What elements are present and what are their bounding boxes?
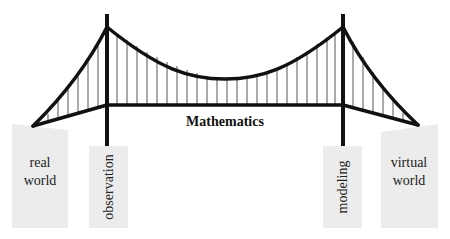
virtual-world-block: virtual world (381, 124, 438, 228)
mathematics-label: Mathematics (186, 114, 264, 129)
bridge-diagram: real world virtual world observation mod… (0, 0, 450, 239)
modeling-label: modeling (335, 161, 350, 214)
real-world-label-line2: world (24, 173, 57, 188)
observation-pillar: observation (89, 146, 128, 228)
virtual-world-label-line2: world (393, 173, 426, 188)
modeling-pillar: modeling (323, 146, 362, 228)
real-world-label-line1: real (30, 155, 51, 170)
observation-label: observation (101, 154, 116, 219)
cable-left-backstay (33, 27, 107, 126)
real-world-block: real world (12, 124, 68, 228)
cable-right-backstay (343, 27, 418, 125)
cable-main-span (107, 27, 343, 79)
virtual-world-label-line1: virtual (391, 155, 428, 170)
